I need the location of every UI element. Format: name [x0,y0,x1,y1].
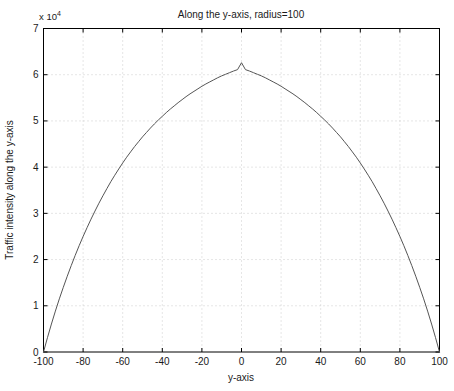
x-tick-label: 40 [315,356,327,367]
x-tick-label: -60 [115,356,130,367]
x-axis-label: y-axis [228,372,254,383]
chart-title: Along the y-axis, radius=100 [178,9,305,20]
y-tick-label: 4 [33,162,39,173]
x-tick-label: 20 [276,356,288,367]
x-tick-label: -80 [76,356,91,367]
y-tick-label: 5 [33,115,39,126]
chart-canvas: -100-80-60-40-20020406080100 01234567 Al… [0,0,454,391]
x-tick-label: 100 [431,356,448,367]
y-tick-label: 2 [33,254,39,265]
y-tick-label: 3 [33,208,39,219]
x-tick-label: -100 [33,356,53,367]
figure-container: -100-80-60-40-20020406080100 01234567 Al… [0,0,454,391]
x-tick-label: 0 [239,356,245,367]
y-axis-label: Traffic intensity along the y-axis [4,120,15,260]
y-tick-label: 0 [33,347,39,358]
figure-background [0,0,454,391]
x-tick-label: -40 [155,356,170,367]
y-tick-label: 7 [33,23,39,34]
y-tick-label: 1 [33,300,39,311]
y-axis-exponent-base: x 10 [39,11,57,22]
y-axis-exponent-power: 4 [57,10,61,17]
x-tick-label: -20 [195,356,210,367]
x-tick-label: 60 [355,356,367,367]
y-tick-label: 6 [33,69,39,80]
x-tick-label: 80 [394,356,406,367]
